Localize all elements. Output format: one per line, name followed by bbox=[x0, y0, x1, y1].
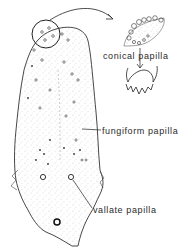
inset-cluster bbox=[124, 16, 164, 46]
label-vallate-papilla: vallate papilla bbox=[93, 206, 157, 215]
conical-papilla-drawing bbox=[126, 66, 157, 94]
label-fungiform-papilla: fungiform papilla bbox=[102, 127, 178, 136]
tongue-outline bbox=[15, 27, 104, 246]
label-conical-papilla: conical papilla bbox=[103, 52, 169, 61]
tongue-diagram: conical papilla fungiform papilla vallat… bbox=[0, 0, 195, 250]
pointer-arrow bbox=[50, 8, 112, 20]
